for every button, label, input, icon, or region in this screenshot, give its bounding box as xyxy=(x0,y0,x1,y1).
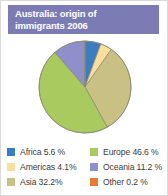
legend-column-left: Africa 5.6 % Americas 4.1% Asia 32.2% xyxy=(1,144,87,194)
legend-label-other: Other 0.2 % xyxy=(103,177,148,187)
title-banner: Australia: origin of immigrants 2006 xyxy=(8,5,159,34)
legend-swatch-americas xyxy=(7,163,15,171)
legend-label-asia: Asia 32.2% xyxy=(20,177,62,187)
pie-chart-svg xyxy=(1,37,168,143)
chart-legend: Africa 5.6 % Americas 4.1% Asia 32.2% Eu… xyxy=(1,144,168,194)
legend-swatch-europe xyxy=(90,148,98,156)
legend-item-other[interactable]: Other 0.2 % xyxy=(90,174,168,189)
legend-item-asia[interactable]: Asia 32.2% xyxy=(7,174,87,189)
page-title: Australia: origin of immigrants 2006 xyxy=(15,8,159,31)
legend-item-americas[interactable]: Americas 4.1% xyxy=(7,159,87,174)
legend-swatch-other xyxy=(90,178,98,186)
legend-label-americas: Americas 4.1% xyxy=(20,162,77,172)
legend-label-europe: Europe 46.6 % xyxy=(103,147,159,157)
legend-column-right: Europe 46.6 % Oceania 11.2 % Other 0.2 % xyxy=(87,144,168,194)
legend-label-africa: Africa 5.6 % xyxy=(20,147,65,157)
legend-item-europe[interactable]: Europe 46.6 % xyxy=(90,144,168,159)
legend-item-africa[interactable]: Africa 5.6 % xyxy=(7,144,87,159)
infographic-card: Australia: origin of immigrants 2006 Afr… xyxy=(0,0,168,196)
legend-item-oceania[interactable]: Oceania 11.2 % xyxy=(90,159,168,174)
pie-chart xyxy=(1,37,168,143)
legend-label-oceania: Oceania 11.2 % xyxy=(103,162,162,172)
legend-swatch-asia xyxy=(7,178,15,186)
legend-swatch-africa xyxy=(7,148,15,156)
legend-swatch-oceania xyxy=(90,163,98,171)
